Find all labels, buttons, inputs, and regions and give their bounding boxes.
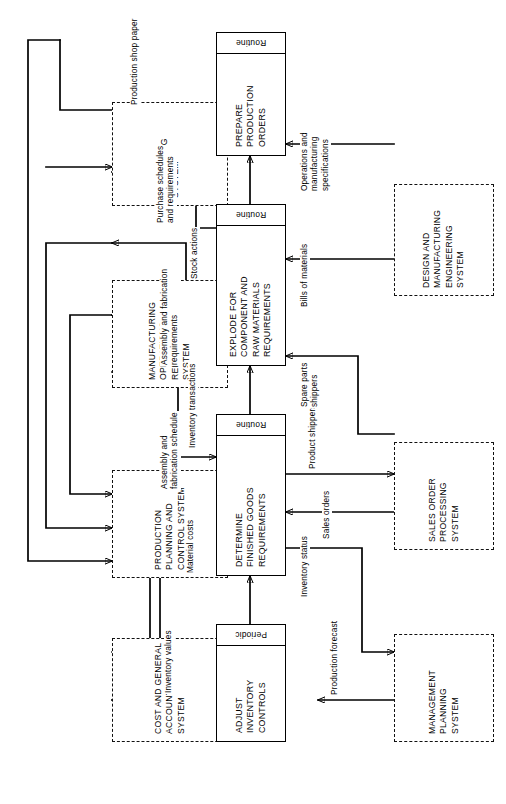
flow-label-assembly-fabrication-schedule: Assembly and fabrication schedule [160,411,181,490]
process-adjust-inventory-controls[interactable]: ADJUST INVENTORY CONTROLS Periodic [216,624,286,742]
process-mode: Routine [217,205,285,225]
process-title: DETERMINE FINISHED GOODS REQUIREMENTS [217,435,285,575]
external-system-label: MANAGEMENT PLANNING SYSTEM [427,670,461,734]
process-prepare-production-orders[interactable]: PREPARE PRODUCTION ORDERS Routine [216,32,286,156]
wire-feedback-to-ppc-inner [70,315,112,494]
flow-label-purchase-schedules-requirements: Purchase schedules and requirements [156,145,177,224]
process-title: ADJUST INVENTORY CONTROLS [217,645,285,741]
process-title-text: DETERMINE FINISHED GOODS REQUIREMENTS [234,487,268,567]
flow-label-inventory-transactions: Inventory transactions [188,363,198,450]
process-mode-text: Routine [236,38,266,48]
external-system-design-manufacturing-engineering[interactable]: DESIGN AND MANUFACTURING ENGINEERING SYS… [394,184,494,296]
flow-label-sales-orders: Sales orders [322,490,332,540]
process-title-text: ADJUST INVENTORY CONTROLS [234,680,268,733]
flow-label-operations-manufacturing-specifications: Operations and manufacturing specificati… [300,131,331,192]
flow-label-inventory-status: Inventory status [300,535,310,598]
process-explode-component-raw-materials[interactable]: EXPLODE FOR COMPONENT AND RAW MATERIALS … [216,204,286,366]
process-title: PREPARE PRODUCTION ORDERS [217,53,285,155]
flow-label-product-shippers: Product shippers [308,403,318,470]
process-mode-text: Periodic [235,630,267,640]
flow-label-bills-of-materials: Bills of materials [300,243,310,308]
process-mode: Routine [217,33,285,53]
process-title-text: EXPLODE FOR COMPONENT AND RAW MATERIALS … [228,276,274,357]
flow-label-production-forecast: Production forecast [330,620,340,696]
diagram-stage: COST AND GENERAL ACCOUNTING SYSTEM PRODU… [0,0,506,804]
wire-feedback-to-ppc-middle [46,243,112,528]
external-system-management-planning[interactable]: MANAGEMENT PLANNING SYSTEM [394,634,494,742]
process-title: EXPLODE FOR COMPONENT AND RAW MATERIALS … [217,225,285,365]
flow-label-assembly-fabrication-requirements: Assembly and fabrication requirements [160,268,181,366]
figure-page: COST AND GENERAL ACCOUNTING SYSTEM PRODU… [0,0,506,804]
flow-label-stock-actions: Stock actions [190,227,200,280]
process-mode-text: Routine [236,210,266,220]
flow-label-spare-parts-shippers: Spare parts shippers [300,361,321,408]
process-mode-text: Routine [236,420,266,430]
process-mode: Routine [217,415,285,435]
external-system-label: DESIGN AND MANUFACTURING ENGINEERING SYS… [421,210,466,288]
flow-label-inventory-values: Inventory values [164,629,174,694]
flow-label-production-shop-paper: Production shop paper [130,17,140,106]
external-system-sales-order-processing[interactable]: SALES ORDER PROCESSING SYSTEM [394,442,494,550]
flow-label-material-costs: Material costs [186,519,196,574]
process-determine-finished-goods-requirements[interactable]: DETERMINE FINISHED GOODS REQUIREMENTS Ro… [216,414,286,576]
external-system-label: PRODUCTION PLANNING AND CONTROL SYSTEM [153,487,187,570]
external-system-label: SALES ORDER PROCESSING SYSTEM [427,478,461,542]
process-mode: Periodic [217,625,285,645]
process-title-text: PREPARE PRODUCTION ORDERS [234,85,268,147]
